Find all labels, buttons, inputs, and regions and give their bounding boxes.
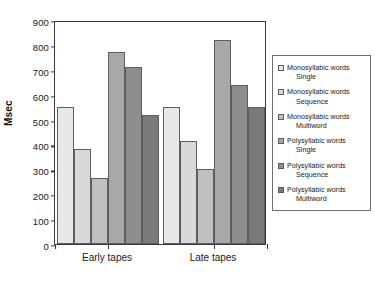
x-axis-tick-mark [214,244,215,249]
bar [180,141,197,244]
legend-label-line2: Sequence [287,97,350,106]
legend: Monosyllabic wordsSingleMonosyllabic wor… [272,55,371,211]
legend-swatch-icon [278,89,284,95]
bar-group [161,22,267,244]
legend-label-line1: Monosyllabic words [287,63,350,72]
legend-label-line1: Polysyllabic words [287,161,346,170]
legend-item: Monosyllabic wordsSingle [278,63,366,81]
bar [214,40,231,244]
legend-label-line1: Polysyllabic words [287,136,346,145]
legend-label-line1: Polysyllabic words [287,185,346,194]
legend-item: Polysyllabic wordsMultiword [278,185,366,203]
legend-swatch-icon [278,163,284,169]
bar [142,115,159,244]
bar [91,178,108,244]
x-axis-tick-mark [108,244,109,249]
legend-swatch-icon [278,114,284,120]
legend-item: Monosyllabic wordsMultiword [278,112,366,130]
legend-item: Polysyllabic wordsSingle [278,136,366,154]
legend-item: Polysyllabic wordsSequence [278,161,366,179]
bar-group [55,22,161,244]
legend-swatch-icon [278,138,284,144]
legend-label-line1: Monosyllabic words [287,112,350,121]
x-axis-tick-mark [267,244,268,249]
legend-label: Monosyllabic wordsSingle [287,63,350,81]
plot-inner: 9008007006005004003002001000 [55,22,265,244]
legend-label-line1: Monosyllabic words [287,87,350,96]
legend-label: Monosyllabic wordsSequence [287,87,350,105]
bar [231,85,248,244]
legend-label-line2: Single [287,72,350,81]
bar-chart: Msec 9008007006005004003002001000 Monosy… [0,0,375,282]
legend-label: Polysyllabic wordsSequence [287,161,346,179]
x-axis-tick-label: Early tapes [54,252,160,263]
y-axis-label: Msec [3,100,14,126]
legend-label-line2: Multiword [287,194,346,203]
bar [163,107,180,244]
legend-swatch-icon [278,65,284,71]
bar [57,107,74,244]
bar [108,52,125,244]
legend-label-line2: Multiword [287,121,350,130]
plot-area: 9008007006005004003002001000 [54,21,266,245]
legend-label-line2: Single [287,145,346,154]
bar [248,107,265,244]
x-axis-tick-label: Late tapes [160,252,266,263]
legend-item: Monosyllabic wordsSequence [278,87,366,105]
legend-label-line2: Sequence [287,170,346,179]
legend-swatch-icon [278,187,284,193]
bar [125,67,142,244]
x-axis-tick-mark [55,244,56,249]
legend-label: Polysyllabic wordsMultiword [287,185,346,203]
bar [197,169,214,244]
bar [74,149,91,244]
legend-label: Polysyllabic wordsSingle [287,136,346,154]
legend-label: Monosyllabic wordsMultiword [287,112,350,130]
